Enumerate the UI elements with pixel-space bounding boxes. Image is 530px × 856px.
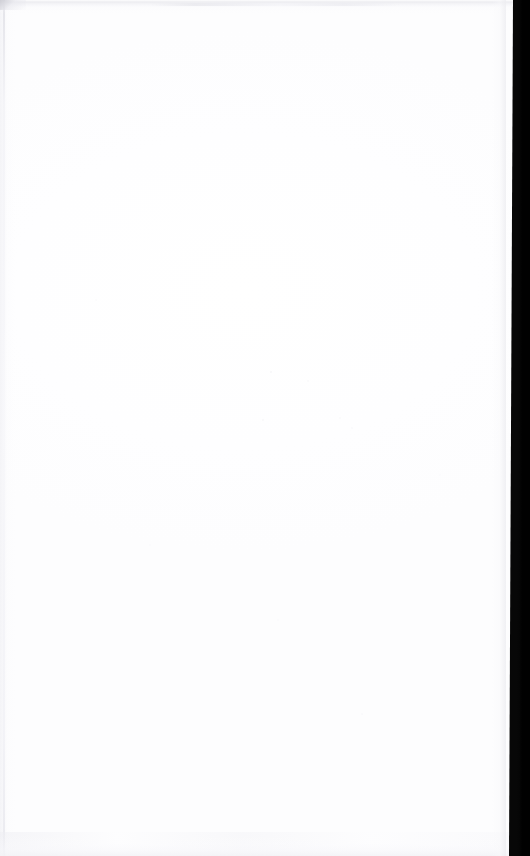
paper-surface [0,0,530,856]
scanned-page [0,0,530,856]
